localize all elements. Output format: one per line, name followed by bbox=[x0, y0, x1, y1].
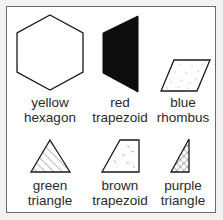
label-green-triangle: green triangle bbox=[13, 178, 87, 208]
hexagon-shape bbox=[17, 15, 83, 90]
label-purple-triangle: purple triangle bbox=[146, 178, 220, 208]
label-shape: triangle bbox=[146, 193, 220, 208]
label-shape: hexagon bbox=[13, 110, 87, 125]
rhombus-shape bbox=[161, 60, 210, 91]
label-color: yellow bbox=[13, 95, 87, 110]
label-blue-rhombus: blue rhombus bbox=[146, 95, 220, 125]
label-shape: rhombus bbox=[146, 110, 220, 125]
label-yellow-hexagon: yellow hexagon bbox=[13, 95, 87, 125]
label-color: purple bbox=[146, 178, 220, 193]
label-color: blue bbox=[146, 95, 220, 110]
label-shape: triangle bbox=[13, 193, 87, 208]
green-triangle-shape bbox=[31, 140, 70, 172]
label-color: green bbox=[13, 178, 87, 193]
brown-trapezoid-shape bbox=[102, 140, 139, 172]
red-trapezoid-shape bbox=[103, 16, 138, 92]
purple-triangle-shape bbox=[171, 139, 189, 172]
